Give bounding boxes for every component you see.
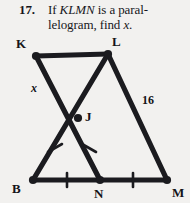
problem-text-line-1-prefix: If xyxy=(48,2,60,17)
parallelogram-name: KLMN xyxy=(60,2,95,17)
problem-text-line-2-prefix: lelogram, find xyxy=(48,17,123,32)
vertex-dot-L xyxy=(104,50,112,58)
segment-LM xyxy=(108,54,167,180)
problem-page: 17. If KLMN is a paral- lelogram, find x… xyxy=(0,0,190,203)
problem-number: 17. xyxy=(19,2,35,18)
problem-statement: 17. If KLMN is a paral- lelogram, find x… xyxy=(0,0,190,36)
vertex-label-M: M xyxy=(172,186,184,199)
geometry-figure: K L J B N M x 16 xyxy=(0,34,190,203)
vertex-dot-J xyxy=(74,114,82,122)
vertex-label-K: K xyxy=(16,37,26,50)
vertex-label-L: L xyxy=(112,35,121,48)
vertex-label-J: J xyxy=(85,110,92,123)
vertex-dot-M xyxy=(163,176,171,184)
side-length-label-16: 16 xyxy=(142,94,154,106)
segment-KL xyxy=(36,54,108,56)
side-length-label-x: x xyxy=(31,82,37,94)
problem-text-line-2-suffix: . xyxy=(129,17,132,32)
vertex-label-N: N xyxy=(94,187,103,200)
problem-text-line-2: lelogram, find x. xyxy=(48,17,132,33)
figure-drawing xyxy=(0,34,190,203)
problem-text-line-1: If KLMN is a paral- xyxy=(48,2,148,18)
vertex-dot-B xyxy=(29,176,37,184)
vertex-dot-K xyxy=(32,52,40,60)
vertex-dot-N xyxy=(96,176,104,184)
vertex-label-B: B xyxy=(12,182,21,195)
problem-text-line-1-suffix: is a paral- xyxy=(95,2,148,17)
